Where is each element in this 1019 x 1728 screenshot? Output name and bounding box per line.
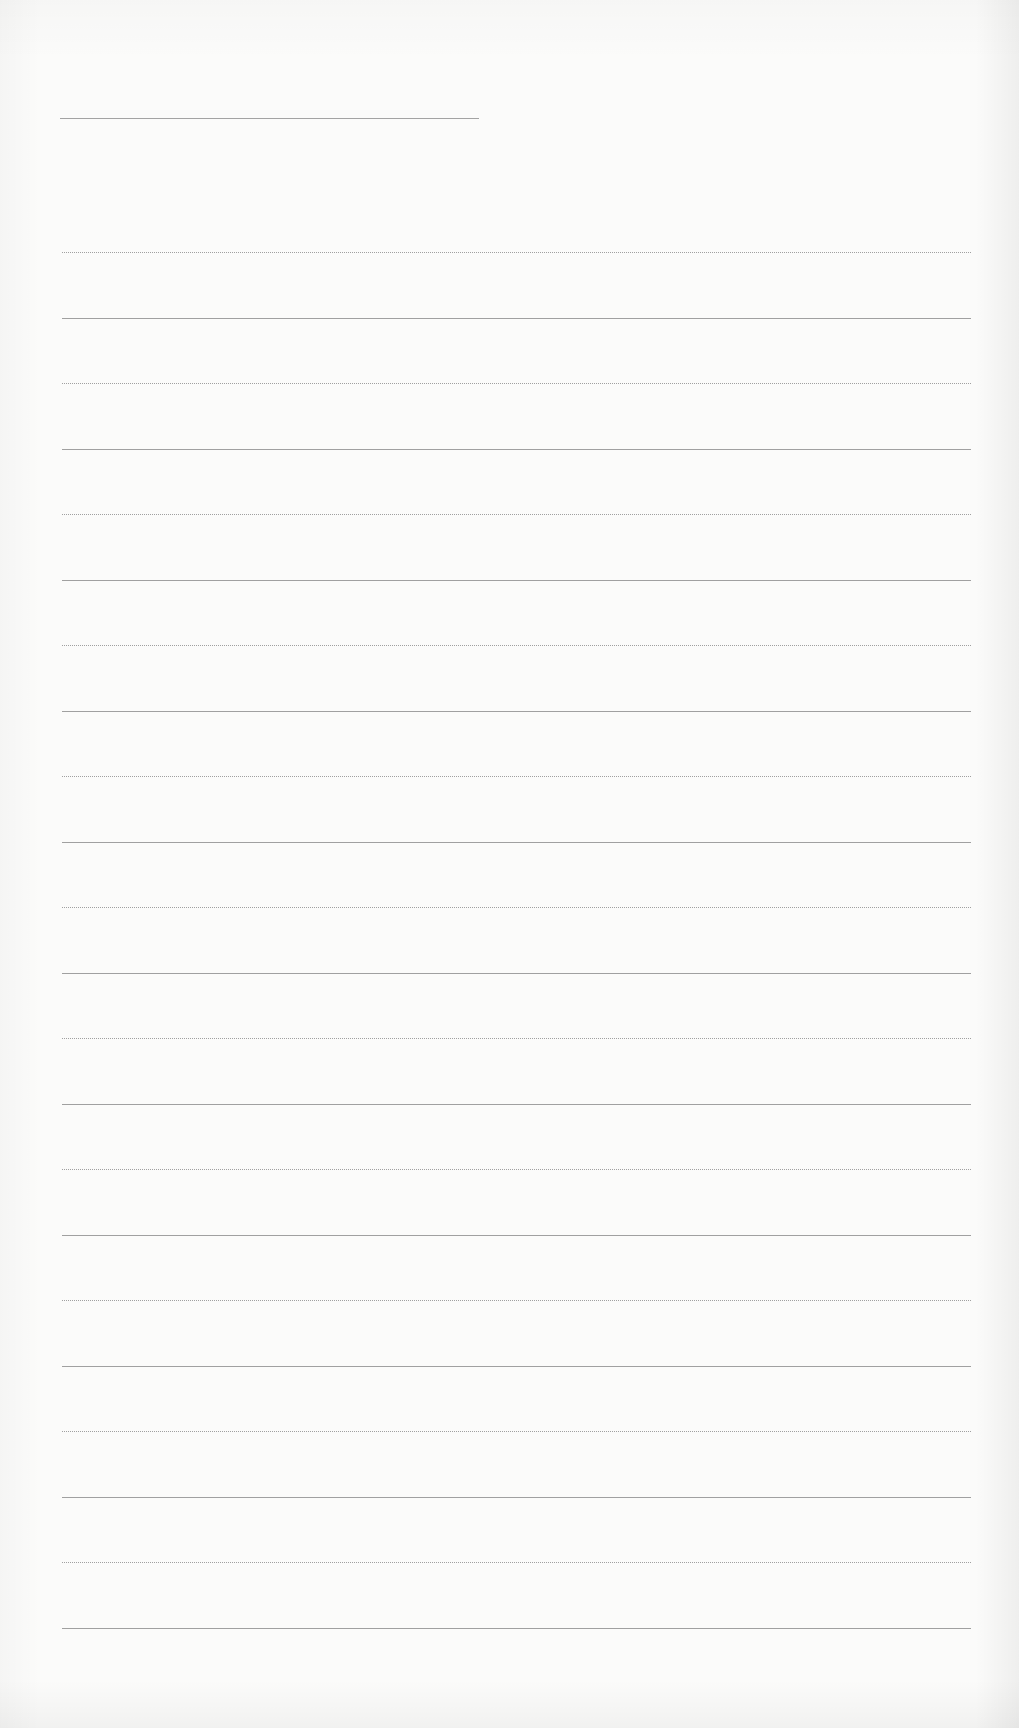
ruled-line (62, 252, 971, 253)
ruled-line (62, 449, 971, 450)
title-line (60, 118, 479, 119)
ruled-line (62, 645, 971, 646)
ruled-line (62, 580, 971, 581)
ruled-line (62, 1169, 971, 1170)
ruled-line (62, 776, 971, 777)
ruled-line (62, 1497, 971, 1498)
ruled-line (62, 842, 971, 843)
ruled-line (62, 514, 971, 515)
ruled-line (62, 1562, 971, 1563)
ruled-line (62, 1431, 971, 1432)
ruled-paper-page (0, 0, 1019, 1728)
ruled-line (62, 1300, 971, 1301)
ruled-line (62, 1104, 971, 1105)
ruled-line (62, 1235, 971, 1236)
ruled-line (62, 1628, 971, 1629)
ruled-line (62, 318, 971, 319)
ruled-line (62, 1038, 971, 1039)
ruled-line (62, 711, 971, 712)
ruled-line (62, 1366, 971, 1367)
ruled-line (62, 973, 971, 974)
ruled-line (62, 907, 971, 908)
ruled-line (62, 383, 971, 384)
